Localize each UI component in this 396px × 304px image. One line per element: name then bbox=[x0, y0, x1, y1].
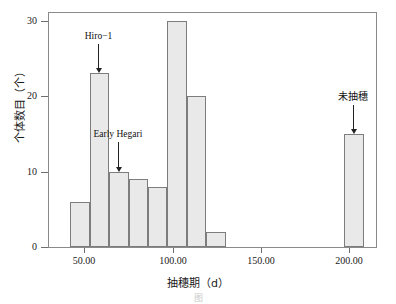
figure-caption: 图 bbox=[0, 291, 396, 304]
annotation-label: Hiro−1 bbox=[38, 31, 158, 41]
annotation-arrow-head bbox=[96, 68, 102, 73]
annotation-arrow-line bbox=[118, 142, 119, 166]
histogram-bar bbox=[148, 187, 167, 247]
x-axis-tick-label: 50.00 bbox=[54, 255, 114, 266]
annotation-arrow-line bbox=[98, 44, 99, 68]
y-axis-tick-label: 30 bbox=[27, 16, 37, 26]
x-axis-line bbox=[48, 247, 377, 248]
y-axis-tick bbox=[41, 247, 48, 248]
histogram-bar bbox=[344, 134, 363, 247]
x-axis-tick bbox=[84, 248, 85, 253]
annotation-arrow-head bbox=[351, 129, 357, 134]
histogram-bar bbox=[206, 232, 225, 247]
histogram-bar bbox=[109, 172, 128, 247]
y-axis-tick bbox=[41, 21, 48, 22]
x-axis-tick bbox=[349, 248, 350, 253]
annotation-label: 未抽穗 bbox=[293, 92, 396, 102]
x-axis-tick bbox=[173, 248, 174, 253]
x-axis-tick bbox=[261, 248, 262, 253]
y-axis-tick-label: 20 bbox=[27, 91, 37, 101]
y-axis-tick-label: 0 bbox=[32, 242, 37, 252]
y-axis-tick bbox=[41, 172, 48, 173]
y-axis-label: 个体数目（个） bbox=[11, 39, 27, 169]
annotation-arrow-head bbox=[116, 167, 122, 172]
x-axis-tick-label: 150.00 bbox=[231, 255, 291, 266]
x-axis-tick-label: 100.00 bbox=[143, 255, 203, 266]
annotation-label: Early Hegari bbox=[58, 129, 178, 139]
histogram-bar bbox=[90, 73, 109, 247]
x-axis-label: 抽穗期（d） bbox=[0, 274, 396, 290]
histogram-bar bbox=[70, 202, 89, 247]
y-axis-tick-label: 10 bbox=[27, 167, 37, 177]
histogram-bar bbox=[129, 179, 148, 247]
annotation-arrow-line bbox=[353, 105, 354, 129]
x-axis-tick-label: 200.00 bbox=[319, 255, 379, 266]
histogram-bar bbox=[187, 96, 206, 247]
y-axis-tick bbox=[41, 96, 48, 97]
